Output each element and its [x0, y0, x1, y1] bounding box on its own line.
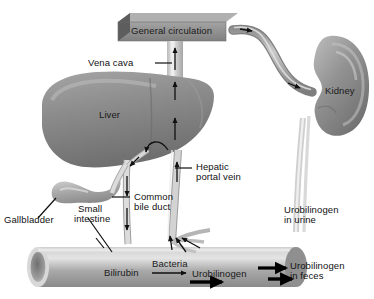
- label-vena-cava: Vena cava: [88, 58, 133, 69]
- liver-organ: [42, 71, 214, 167]
- renal-vessel: [233, 27, 312, 92]
- label-urobilinogen-feces-line2: in feces: [290, 271, 324, 282]
- anatomy-illustration: [0, 0, 374, 299]
- label-bilirubin: Bilirubin: [104, 268, 139, 279]
- label-urobilinogen: Urobilinogen: [192, 269, 247, 280]
- label-urobilinogen-urine-line2: in urine: [284, 215, 316, 226]
- label-bacteria: Bacteria: [152, 259, 188, 270]
- diagram-canvas: General circulation Vena cava Liver Kidn…: [0, 0, 374, 299]
- label-general-circulation: General circulation: [131, 26, 212, 37]
- label-small-intestine-line2: intestine: [74, 214, 110, 225]
- label-kidney: Kidney: [325, 86, 355, 97]
- label-hepatic-portal-vein-line2: portal vein: [196, 172, 241, 183]
- label-liver: Liver: [99, 110, 120, 121]
- label-gallbladder: Gallbladder: [4, 215, 54, 226]
- label-common-bile-duct-line2: bile duct: [134, 202, 170, 213]
